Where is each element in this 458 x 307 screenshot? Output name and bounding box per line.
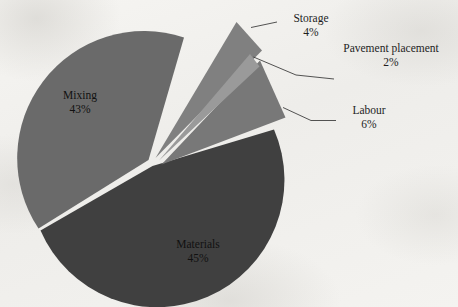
leader-line-labour bbox=[283, 108, 336, 121]
slice-label-materials: Materials 45% bbox=[152, 238, 244, 265]
slice-label-storage-name: Storage bbox=[276, 12, 346, 26]
slice-label-storage-percent: 4% bbox=[276, 26, 346, 40]
slice-label-labour-percent: 6% bbox=[334, 118, 404, 132]
slice-label-pavement-placement-percent: 2% bbox=[326, 56, 456, 70]
slice-label-materials-name: Materials bbox=[152, 238, 244, 252]
slice-label-labour-name: Labour bbox=[334, 104, 404, 118]
slice-label-pavement-placement-name: Pavement placement bbox=[326, 42, 456, 56]
slice-label-pavement-placement: Pavement placement 2% bbox=[326, 42, 456, 69]
slice-label-labour: Labour 6% bbox=[334, 104, 404, 131]
slice-label-materials-percent: 45% bbox=[152, 252, 244, 266]
slice-label-storage: Storage 4% bbox=[276, 12, 346, 39]
pie-chart-figure: Mixing 43% Materials 45% Storage 4% Pave… bbox=[0, 0, 458, 307]
slice-label-mixing-percent: 43% bbox=[40, 103, 120, 117]
slice-label-mixing: Mixing 43% bbox=[40, 89, 120, 116]
leader-line-storage bbox=[251, 22, 277, 28]
slice-label-mixing-name: Mixing bbox=[40, 89, 120, 103]
